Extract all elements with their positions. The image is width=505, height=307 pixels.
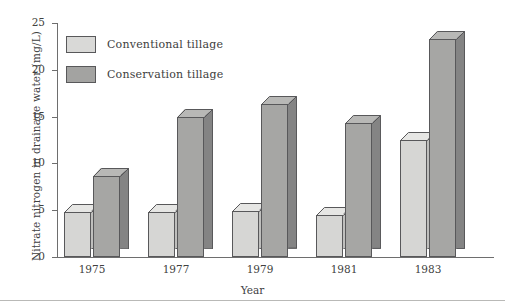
bar-side-face (288, 96, 297, 249)
x-axis-line (57, 257, 494, 258)
legend-item: Conventional tillage (66, 33, 224, 55)
y-axis-line (57, 23, 58, 258)
bar-side-face (120, 168, 129, 249)
y-tick-label: 20 (32, 63, 45, 75)
y-tick: 15 (52, 117, 58, 118)
bar-side-face (372, 115, 381, 249)
bar-front-face (64, 212, 91, 257)
legend-label: Conventional tillage (107, 38, 223, 51)
bar-group (316, 23, 382, 257)
x-tick-label: 1977 (141, 263, 211, 275)
y-tick-label: 25 (32, 16, 45, 28)
y-tick-label: 5 (38, 203, 45, 215)
bar-front-face (232, 211, 259, 257)
chart-legend: Conventional tillageConservation tillage (66, 33, 224, 93)
y-tick: 0 (52, 257, 58, 258)
bar-conservation (93, 176, 120, 257)
bar-conservation (261, 104, 288, 257)
chart-figure: Nitrate nitrogen in drainage water (mg/L… (0, 0, 505, 307)
bar-front-face (345, 123, 372, 257)
x-axis-label: Year (0, 284, 505, 296)
bar-conservation (177, 117, 204, 257)
bar-conventional (64, 212, 91, 257)
bar-side-face (204, 109, 213, 249)
bar-front-face (148, 212, 175, 257)
x-tick-label: 1975 (57, 263, 127, 275)
y-tick: 20 (52, 70, 58, 71)
y-tick-label: 0 (38, 250, 45, 262)
bar-conventional (400, 140, 427, 257)
bar-conservation (345, 123, 372, 257)
bar-conservation (429, 39, 456, 257)
y-tick: 5 (52, 210, 58, 211)
bar-front-face (316, 215, 343, 257)
bar-conventional (316, 215, 343, 257)
x-tick-label: 1979 (225, 263, 295, 275)
y-tick: 10 (52, 163, 58, 164)
legend-swatch-dark (66, 66, 96, 83)
bar-front-face (429, 39, 456, 257)
bar-side-face (456, 31, 465, 249)
bar-front-face (261, 104, 288, 257)
bar-conventional (148, 212, 175, 257)
bar-group (232, 23, 298, 257)
legend-swatch-light (66, 36, 96, 53)
y-tick-label: 15 (32, 110, 45, 122)
bar-group (400, 23, 466, 257)
y-tick-label: 10 (32, 156, 45, 168)
bar-front-face (177, 117, 204, 257)
bar-front-face (93, 176, 120, 257)
bar-front-face (400, 140, 427, 257)
y-tick: 25 (52, 23, 58, 24)
bar-conventional (232, 211, 259, 257)
page-rule (0, 300, 505, 301)
x-tick-label: 1981 (309, 263, 379, 275)
legend-label: Conservation tillage (107, 68, 224, 81)
x-tick-label: 1983 (393, 263, 463, 275)
legend-item: Conservation tillage (66, 63, 224, 85)
